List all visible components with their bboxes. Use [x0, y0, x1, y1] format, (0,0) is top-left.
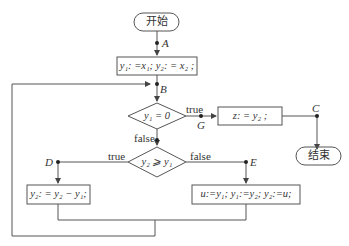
init-label: y₁: =x₁; y₂: = x₂ ;	[117, 61, 197, 72]
condition2-label: y₂ ⩾ y₁	[128, 157, 186, 168]
end-label: 结束	[296, 150, 341, 161]
point-d-label: D	[45, 157, 53, 168]
condition2-false-label: false	[190, 151, 211, 162]
flowchart-shapes	[0, 0, 349, 246]
point-c-label: C	[312, 103, 319, 114]
subtract-label: y₂: = y₂ − y₁;	[27, 189, 90, 200]
point-a-label: A	[162, 38, 169, 49]
point-g-label: G	[197, 120, 205, 131]
flowchart: 开始 y₁: =x₁; y₂: = x₂ ; y₁ = 0 z: = y₂ ; …	[0, 0, 349, 246]
condition1-true-label: true	[186, 104, 203, 115]
point-e-label: E	[250, 157, 257, 168]
swap-label: u:=y₁; y₁:=y₂; y₂:=u;	[192, 189, 300, 200]
condition1-false-label: false	[134, 133, 155, 144]
condition2-true-label: true	[108, 151, 125, 162]
assign-z-label: z: = y₂ ;	[218, 111, 282, 122]
point-b-label: B	[160, 84, 167, 95]
start-label: 开始	[134, 16, 179, 27]
condition1-label: y₁ = 0	[128, 111, 186, 122]
